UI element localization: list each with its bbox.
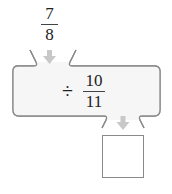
- machine-denominator: 11: [86, 94, 102, 110]
- input-numerator: 7: [45, 6, 54, 22]
- machine-numerator: 10: [86, 73, 103, 89]
- operator-divide: ÷: [62, 80, 73, 103]
- input-arrow-icon: [43, 50, 56, 64]
- input-fraction: 7 8: [41, 6, 58, 43]
- output-box[interactable]: [103, 136, 144, 178]
- machine-fraction: 10 11: [83, 73, 105, 110]
- input-denominator: 8: [45, 27, 54, 43]
